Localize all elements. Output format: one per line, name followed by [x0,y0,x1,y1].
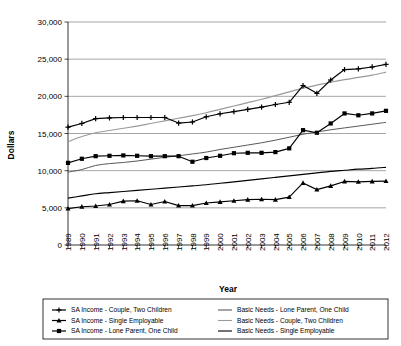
data-point [287,146,291,150]
x-tick-label: 2007 [313,233,322,251]
x-tick-label: 2004 [272,233,281,251]
data-point [232,151,236,155]
series-1 [66,178,389,210]
data-point [177,154,181,158]
data-point [301,128,305,132]
legend-label: Basic Needs - Single Employable [237,327,335,335]
legend-item[interactable]: Basic Needs - Couple, Two Children [218,317,343,325]
x-tick-label: 1998 [189,233,198,251]
data-point [384,109,388,113]
y-axis-title: Dollars [6,130,16,159]
line-chart: 05,00010,00015,00020,00025,00030,000 198… [0,0,401,346]
x-tick-label: 1993 [120,233,129,251]
data-point [135,154,139,158]
series-line [68,181,386,209]
x-tick-label: 1994 [133,233,142,251]
legend: SA Income - Couple, Two ChildrenSA Incom… [52,306,349,335]
data-point [342,111,346,115]
data-point [218,154,222,158]
x-tick-label: 1989 [64,233,73,251]
legend-item[interactable]: SA Income - Single Employable [52,317,164,325]
y-tick-label: 15,000 [38,130,63,139]
data-point [273,150,277,154]
data-point [259,151,263,155]
y-axis-tick-labels: 05,00010,00015,00020,00025,00030,000 [38,18,63,250]
data-point [66,161,70,165]
legend-item[interactable]: Basic Needs - Lone Parent, One Child [218,306,349,313]
x-tick-label: 2008 [327,233,336,251]
legend-item[interactable]: Basic Needs - Single Employable [218,327,335,335]
data-point [370,111,374,115]
data-point [149,154,153,158]
x-tick-label: 2000 [216,233,225,251]
chart-container: 05,00010,00015,00020,00025,00030,000 198… [0,0,401,346]
x-axis-tick-labels: 1989199019911992199319941995199619971998… [64,233,391,251]
x-tick-label: 2002 [244,233,253,251]
x-tick-label: 2009 [341,233,350,251]
legend-label: Basic Needs - Couple, Two Children [237,317,343,325]
x-tick-label: 1999 [202,233,211,251]
data-point [246,151,250,155]
y-tick-label: 25,000 [38,55,63,64]
data-point [356,113,360,117]
y-tick-label: 10,000 [38,167,63,176]
series-5 [68,167,386,198]
series-4 [68,72,386,142]
series-0 [65,62,388,130]
series-2 [66,109,388,165]
legend-item[interactable]: SA Income - Lone Parent, One Child [52,327,178,334]
x-tick-label: 2005 [285,233,294,251]
x-tick-label: 2006 [299,233,308,251]
legend-label: SA Income - Single Employable [71,317,164,325]
x-tick-label: 2010 [355,233,364,251]
x-tick-label: 1995 [147,233,156,251]
y-tick-label: 30,000 [38,18,63,27]
data-point [94,154,98,158]
legend-label: Basic Needs - Lone Parent, One Child [237,306,349,313]
data-point [315,131,319,135]
data-point [204,156,208,160]
x-axis-title: Year [219,284,238,294]
data-point [301,180,306,185]
series-line [68,167,386,198]
x-tick-label: 2011 [368,233,377,251]
data-point [121,153,125,157]
data-point [163,154,167,158]
x-axis-ticks [68,245,386,249]
data-point [107,154,111,158]
data-point [57,329,61,333]
x-tick-label: 2012 [382,233,391,251]
x-tick-label: 1991 [92,233,101,251]
x-tick-label: 1992 [106,233,115,251]
data-point [190,160,194,164]
series-line [68,72,386,142]
data-point [80,157,84,161]
gridlines [68,22,386,208]
data-point [329,121,333,125]
y-tick-label: 0 [58,241,63,250]
x-tick-label: 2003 [258,233,267,251]
x-tick-label: 2001 [230,233,239,251]
data-point [162,199,167,204]
legend-label: SA Income - Lone Parent, One Child [71,327,178,334]
y-tick-label: 5,000 [42,204,63,213]
y-tick-label: 20,000 [38,92,63,101]
series-line [68,111,386,163]
y-axis-ticks [65,22,69,245]
legend-item[interactable]: SA Income - Couple, Two Children [52,306,172,314]
legend-label: SA Income - Couple, Two Children [71,306,172,314]
x-tick-label: 1996 [161,233,170,251]
x-tick-label: 1997 [175,233,184,251]
series-layer [65,62,388,211]
x-tick-label: 1990 [78,233,87,251]
